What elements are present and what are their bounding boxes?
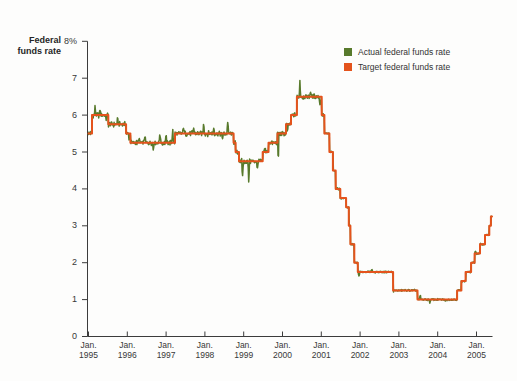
- y-axis-title-line2: funds rate: [0, 46, 61, 57]
- x-tick-label: Jan.2004: [420, 340, 456, 360]
- x-tick-label: Jan.2002: [342, 340, 378, 360]
- y-tick-label: 1: [45, 294, 77, 305]
- legend-label-actual: Actual federal funds rate: [358, 47, 450, 57]
- y-tick-label: 2: [45, 257, 77, 268]
- y-tick-label: 8%: [45, 36, 77, 47]
- chart-legend: Actual federal funds rate Target federal…: [344, 47, 450, 77]
- legend-item-actual: Actual federal funds rate: [344, 47, 450, 57]
- x-tick-label: Jan.2005: [459, 340, 495, 360]
- x-tick-label: Jan.1996: [109, 340, 145, 360]
- x-tick-label: Jan.1998: [187, 340, 223, 360]
- federal-funds-rate-figure: Federal funds rate 012345678% Jan.1995Ja…: [0, 0, 517, 381]
- y-tick-label: 5: [45, 147, 77, 158]
- x-tick-label: Jan.2003: [381, 340, 417, 360]
- x-tick-label: Jan.1995: [71, 340, 107, 360]
- x-tick-label: Jan.1997: [148, 340, 184, 360]
- y-tick-label: 7: [45, 73, 77, 84]
- legend-label-target: Target federal funds rate: [358, 62, 450, 72]
- actual-series-swatch: [344, 48, 352, 56]
- y-tick-label: 4: [45, 183, 77, 194]
- target-series-swatch: [344, 63, 352, 71]
- x-tick-label: Jan.2000: [265, 340, 301, 360]
- y-tick-label: 3: [45, 220, 77, 231]
- x-tick-label: Jan.1999: [226, 340, 262, 360]
- x-tick-label: Jan.2001: [303, 340, 339, 360]
- y-tick-label: 6: [45, 110, 77, 121]
- legend-item-target: Target federal funds rate: [344, 62, 450, 72]
